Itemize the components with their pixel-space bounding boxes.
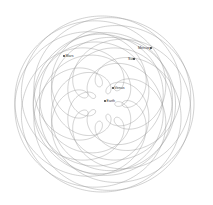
mars-marker: Mars — [63, 54, 74, 58]
orbit-paths — [15, 16, 194, 192]
earth-marker: Earth — [104, 99, 115, 103]
mercury-marker: Mercury — [138, 46, 152, 50]
venus-label: Venus — [115, 86, 125, 90]
mars-orbit-path — [15, 16, 194, 192]
sun-marker: Sun — [128, 57, 135, 61]
sun-label: Sun — [128, 57, 134, 61]
earth-label: Earth — [107, 99, 116, 103]
body-markers: Earth Venus Sun Mercury Mars — [63, 46, 152, 103]
mercury-label: Mercury — [138, 46, 151, 50]
venus-orbit-path — [33, 33, 175, 176]
geocentric-orbit-diagram: Earth Venus Sun Mercury Mars — [0, 0, 213, 205]
venus-marker: Venus — [112, 86, 125, 90]
mars-label: Mars — [66, 54, 74, 58]
